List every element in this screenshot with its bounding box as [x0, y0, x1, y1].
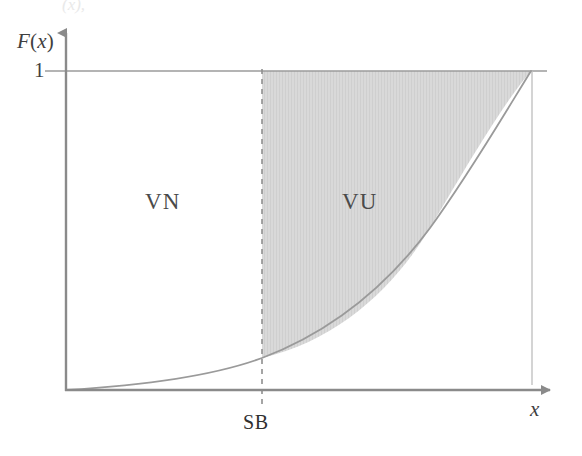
- y-tick-label-1: 1: [34, 60, 45, 81]
- region-label-vn: VN: [145, 190, 181, 213]
- y-axis-label: F(x): [17, 31, 54, 52]
- vu-shaded-area: [262, 71, 531, 358]
- y-axis-label-func: F: [17, 29, 30, 53]
- x-axis-label: x: [530, 399, 539, 420]
- y-axis-label-arg-var: x: [37, 29, 47, 53]
- chart-svg: [0, 0, 582, 456]
- region-label-vu: VU: [342, 190, 378, 213]
- figure-container: (x),: [0, 0, 582, 456]
- x-tick-label-sb: SB: [243, 412, 269, 432]
- y-axis-label-arg: (x): [30, 29, 54, 53]
